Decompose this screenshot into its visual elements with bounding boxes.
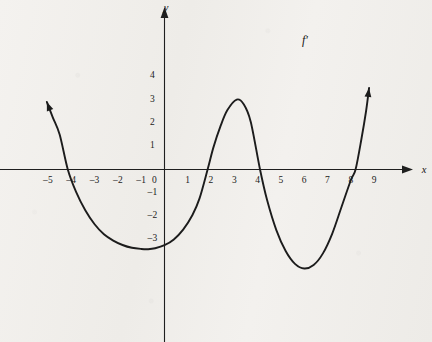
graph-figure: –5–4–3–2–11234567894321–1–2–30 x y f′ — [0, 0, 432, 342]
x-axis-label: x — [422, 165, 427, 176]
y-tick-label: 2 — [150, 118, 155, 128]
x-tick-label: –4 — [66, 176, 76, 186]
x-tick-label: –2 — [113, 176, 123, 186]
x-tick-label: 4 — [255, 176, 260, 186]
origin-label: 0 — [152, 176, 157, 186]
x-tick-label: 6 — [302, 176, 307, 186]
x-tick-label: –3 — [90, 176, 100, 186]
x-tick-label: 5 — [279, 176, 284, 186]
y-tick-label: –2 — [148, 211, 158, 221]
x-tick-label: 7 — [325, 176, 330, 186]
coordinate-plane — [0, 0, 432, 342]
x-tick-label: 8 — [348, 176, 353, 186]
x-tick-label: 3 — [232, 176, 237, 186]
y-axis-label: y — [164, 3, 169, 14]
x-tick-label: –5 — [43, 176, 53, 186]
y-tick-label: 3 — [150, 95, 155, 105]
x-tick-label: 2 — [209, 176, 214, 186]
y-tick-label: –3 — [148, 235, 158, 245]
curve-right-arrowhead — [365, 88, 372, 97]
curve-label: f′ — [302, 34, 308, 46]
y-tick-label: 4 — [150, 72, 155, 82]
y-tick-label: –1 — [148, 188, 158, 198]
x-tick-label: 1 — [185, 176, 190, 186]
x-tick-label: 9 — [372, 176, 377, 186]
x-axis-arrowhead — [402, 166, 413, 174]
x-tick-label: –1 — [136, 176, 146, 186]
curve-left-arrowhead — [47, 102, 53, 112]
y-tick-label: 1 — [150, 141, 155, 151]
